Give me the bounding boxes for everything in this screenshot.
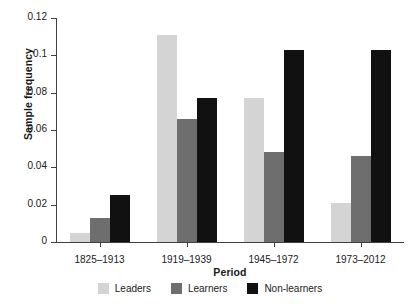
plot-area: 00.020.040.060.080.10.12 1825–19131919–1… [56, 18, 404, 242]
x-axis-tick-label: 1945–1972 [230, 254, 317, 265]
figure: Sample frequency 00.020.040.060.080.10.1… [0, 0, 420, 308]
bar [70, 233, 90, 242]
legend-label: Non-learners [264, 283, 322, 294]
bar [351, 156, 371, 242]
legend-swatch [98, 283, 109, 294]
legend: LeadersLearnersNon-learners [0, 283, 420, 294]
x-axis-tick [187, 242, 188, 247]
bar [264, 152, 284, 242]
y-axis-tick-label: 0.08 [28, 86, 47, 97]
y-axis-tick-label: 0.12 [28, 11, 47, 22]
bar [331, 203, 351, 242]
y-axis-tick: 0 [51, 242, 56, 243]
bar [284, 50, 304, 242]
y-axis-tick: 0.1 [51, 55, 56, 56]
y-axis-tick-label: 0.06 [28, 123, 47, 134]
bar [177, 119, 197, 242]
x-axis-tick [361, 242, 362, 247]
y-axis-tick: 0.02 [51, 205, 56, 206]
legend-item: Non-learners [247, 283, 322, 294]
y-axis-tick: 0.12 [51, 18, 56, 19]
bar [244, 98, 264, 242]
x-axis-tick-label: 1973–2012 [317, 254, 404, 265]
y-axis-tick: 0.04 [51, 167, 56, 168]
bar [371, 50, 391, 242]
legend-label: Leaders [115, 283, 151, 294]
legend-swatch [247, 283, 258, 294]
y-axis-tick: 0.08 [51, 93, 56, 94]
y-axis-tick: 0.06 [51, 130, 56, 131]
x-axis-tick [274, 242, 275, 247]
x-axis-line [56, 242, 404, 243]
x-axis-title: Period [56, 266, 404, 278]
legend-swatch [171, 283, 182, 294]
y-axis-tick-label: 0 [41, 235, 47, 246]
x-axis-tick-label: 1825–1913 [56, 254, 143, 265]
figure-caption [6, 301, 416, 308]
legend-label: Learners [188, 283, 227, 294]
legend-item: Learners [171, 283, 227, 294]
x-axis-tick [100, 242, 101, 247]
bar [197, 98, 217, 242]
bar [157, 35, 177, 242]
y-axis-tick-label: 0.04 [28, 160, 47, 171]
bar [90, 218, 110, 242]
legend-item: Leaders [98, 283, 151, 294]
y-axis-line [56, 18, 57, 242]
y-axis-tick-label: 0.1 [33, 48, 47, 59]
bar [110, 195, 130, 242]
x-axis-tick-label: 1919–1939 [143, 254, 230, 265]
y-axis-tick-label: 0.02 [28, 198, 47, 209]
